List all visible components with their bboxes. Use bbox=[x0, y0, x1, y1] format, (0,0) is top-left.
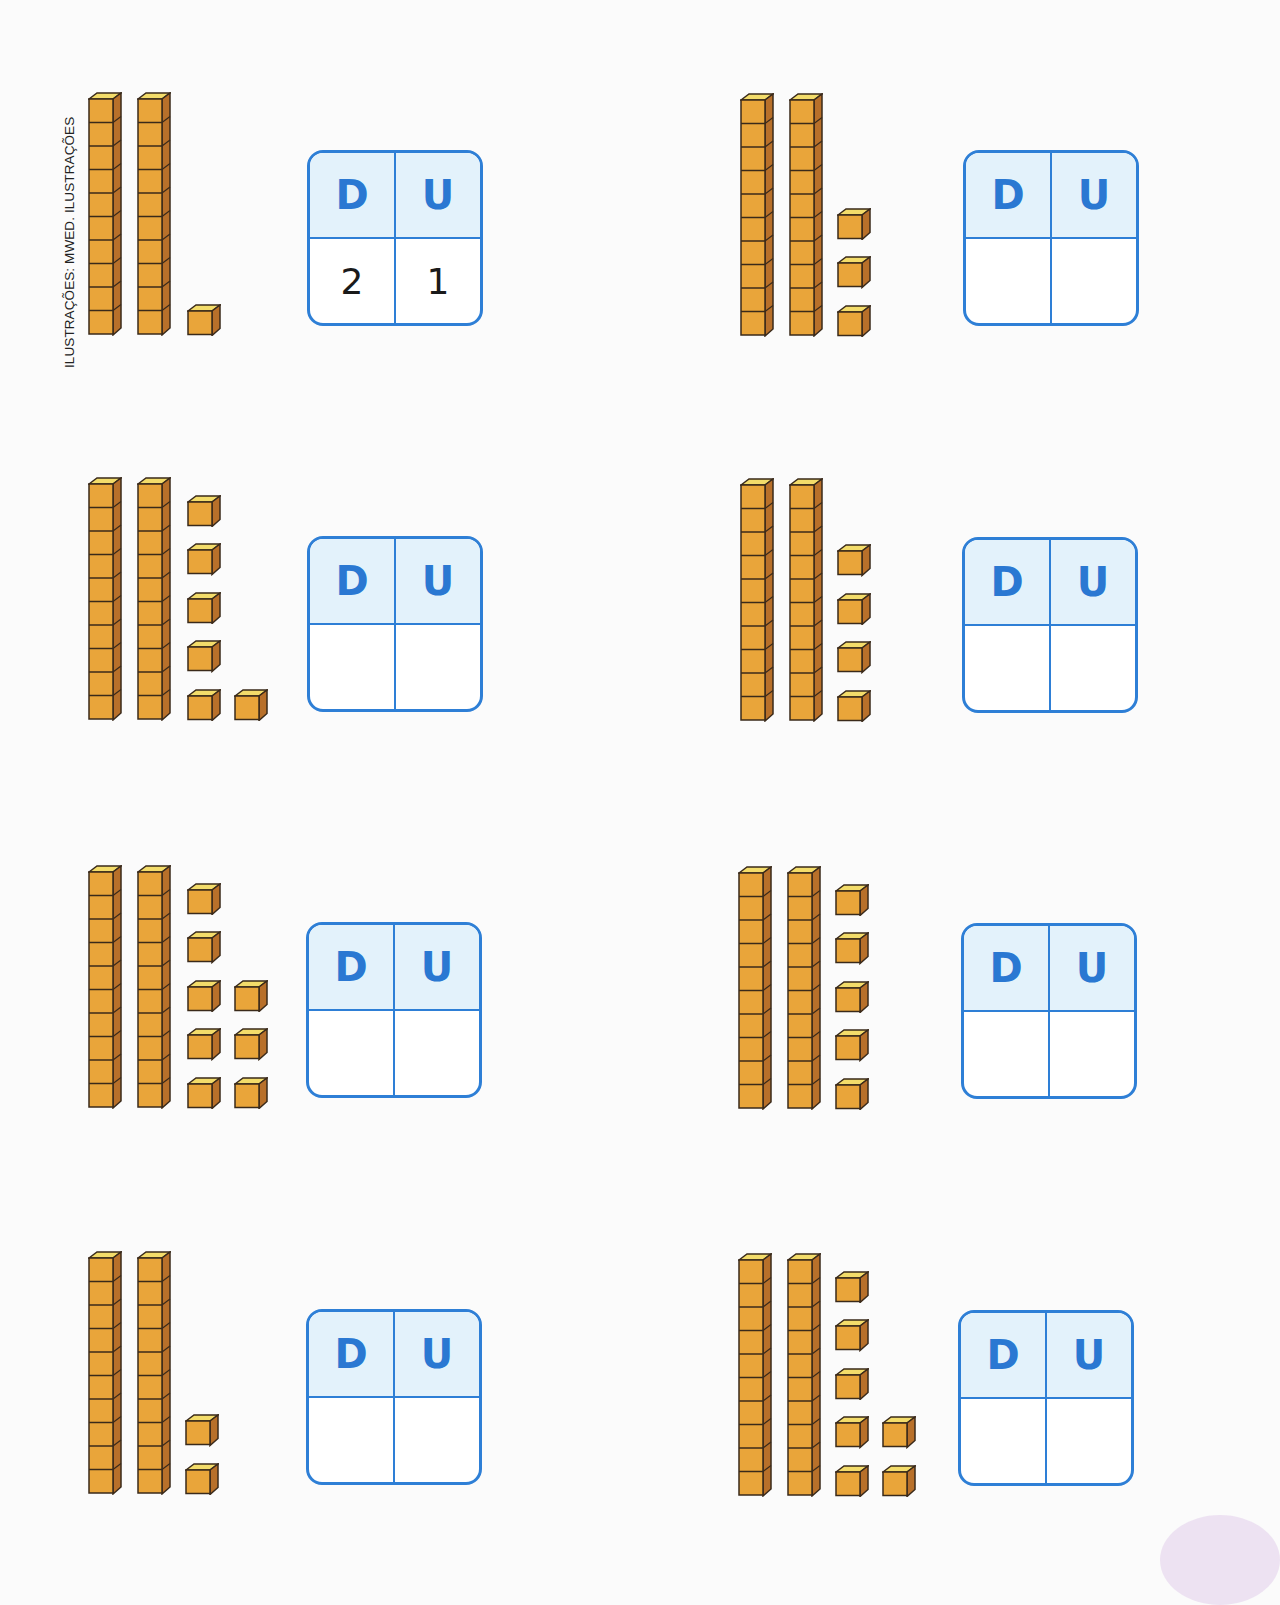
tens-answer-field[interactable] bbox=[964, 1011, 1049, 1096]
tens-header: D bbox=[965, 540, 1050, 625]
unit-cube-icon bbox=[234, 980, 268, 1012]
units-header: U bbox=[1049, 926, 1134, 1011]
ten-rod-icon bbox=[137, 92, 171, 336]
tens-answer-field[interactable] bbox=[309, 1397, 394, 1482]
tens-header: D bbox=[310, 539, 395, 624]
unit-cube-icon bbox=[882, 1465, 916, 1497]
ten-rod-icon bbox=[137, 1251, 171, 1495]
units-answer-field[interactable] bbox=[1049, 1011, 1134, 1096]
unit-cube-icon bbox=[837, 544, 871, 576]
unit-cube-icon bbox=[187, 1077, 221, 1109]
unit-cube-icon bbox=[837, 593, 871, 625]
unit-cube-icon bbox=[835, 1319, 869, 1351]
ten-rod-icon bbox=[740, 93, 774, 337]
ten-rod-icon bbox=[787, 866, 821, 1110]
unit-cube-icon bbox=[835, 1078, 869, 1110]
tens-header: D bbox=[961, 1313, 1046, 1398]
unit-cube-icon bbox=[837, 305, 871, 337]
tens-units-table: D U 2 1 bbox=[307, 150, 483, 326]
tens-units-table: D U bbox=[306, 922, 482, 1098]
ten-rod-icon bbox=[789, 478, 823, 722]
ten-rod-icon bbox=[787, 1253, 821, 1497]
units-header: U bbox=[1046, 1313, 1131, 1398]
unit-cube-icon bbox=[187, 689, 221, 721]
unit-cube-icon bbox=[185, 1414, 219, 1446]
unit-cube-icon bbox=[234, 1077, 268, 1109]
decorative-blob bbox=[1160, 1515, 1280, 1605]
ten-rod-icon bbox=[88, 92, 122, 336]
units-answer-field[interactable] bbox=[395, 624, 480, 709]
units-answer-field[interactable] bbox=[1050, 625, 1135, 710]
ten-rod-icon bbox=[88, 477, 122, 721]
units-header: U bbox=[394, 1312, 479, 1397]
units-answer-field[interactable]: 1 bbox=[395, 238, 480, 323]
units-answer-field[interactable] bbox=[394, 1397, 479, 1482]
tens-units-table: D U bbox=[958, 1310, 1134, 1486]
tens-header: D bbox=[964, 926, 1049, 1011]
ten-rod-icon bbox=[738, 1253, 772, 1497]
units-header: U bbox=[1051, 153, 1136, 238]
unit-cube-icon bbox=[187, 1028, 221, 1060]
tens-answer-field[interactable] bbox=[966, 238, 1051, 323]
tens-header: D bbox=[309, 925, 394, 1010]
unit-cube-icon bbox=[187, 304, 221, 336]
unit-cube-icon bbox=[234, 1028, 268, 1060]
unit-cube-icon bbox=[835, 1465, 869, 1497]
unit-cube-icon bbox=[185, 1463, 219, 1495]
unit-cube-icon bbox=[837, 256, 871, 288]
tens-units-table: D U bbox=[963, 150, 1139, 326]
unit-cube-icon bbox=[234, 689, 268, 721]
tens-answer-field[interactable] bbox=[961, 1398, 1046, 1483]
tens-units-table: D U bbox=[306, 1309, 482, 1485]
tens-answer-field[interactable] bbox=[309, 1010, 394, 1095]
tens-units-table: D U bbox=[962, 537, 1138, 713]
tens-units-table: D U bbox=[307, 536, 483, 712]
tens-header: D bbox=[966, 153, 1051, 238]
units-answer-field[interactable] bbox=[1051, 238, 1136, 323]
units-answer-field[interactable] bbox=[394, 1010, 479, 1095]
unit-cube-icon bbox=[835, 884, 869, 916]
unit-cube-icon bbox=[187, 543, 221, 575]
unit-cube-icon bbox=[835, 1368, 869, 1400]
unit-cube-icon bbox=[837, 208, 871, 240]
unit-cube-icon bbox=[835, 981, 869, 1013]
units-header: U bbox=[395, 153, 480, 238]
unit-cube-icon bbox=[187, 931, 221, 963]
illustration-credit: ILUSTRAÇÕES: MWED. ILUSTRAÇÕES bbox=[62, 117, 77, 368]
ten-rod-icon bbox=[789, 93, 823, 337]
ten-rod-icon bbox=[137, 477, 171, 721]
tens-header: D bbox=[309, 1312, 394, 1397]
tens-answer-field[interactable] bbox=[310, 624, 395, 709]
unit-cube-icon bbox=[835, 1271, 869, 1303]
unit-cube-icon bbox=[187, 883, 221, 915]
tens-answer-field[interactable]: 2 bbox=[310, 238, 395, 323]
unit-cube-icon bbox=[187, 640, 221, 672]
tens-units-table: D U bbox=[961, 923, 1137, 1099]
unit-cube-icon bbox=[187, 495, 221, 527]
unit-cube-icon bbox=[835, 932, 869, 964]
units-header: U bbox=[1050, 540, 1135, 625]
ten-rod-icon bbox=[88, 865, 122, 1109]
units-answer-field[interactable] bbox=[1046, 1398, 1131, 1483]
ten-rod-icon bbox=[137, 865, 171, 1109]
ten-rod-icon bbox=[738, 866, 772, 1110]
units-header: U bbox=[394, 925, 479, 1010]
unit-cube-icon bbox=[187, 980, 221, 1012]
unit-cube-icon bbox=[837, 641, 871, 673]
units-header: U bbox=[395, 539, 480, 624]
tens-answer-field[interactable] bbox=[965, 625, 1050, 710]
ten-rod-icon bbox=[88, 1251, 122, 1495]
unit-cube-icon bbox=[187, 592, 221, 624]
unit-cube-icon bbox=[835, 1416, 869, 1448]
tens-header: D bbox=[310, 153, 395, 238]
unit-cube-icon bbox=[837, 690, 871, 722]
unit-cube-icon bbox=[882, 1416, 916, 1448]
unit-cube-icon bbox=[835, 1029, 869, 1061]
ten-rod-icon bbox=[740, 478, 774, 722]
